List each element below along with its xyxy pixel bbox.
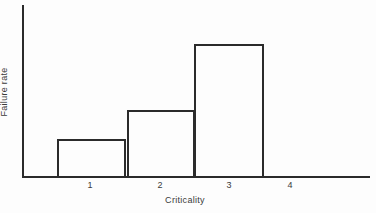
y-axis-title: Failure rate [0,67,9,116]
x-axis-title: Criticality [0,195,376,205]
x-axis-title-text: Criticality [165,195,205,205]
bar-criticality-3 [194,44,264,177]
bar-criticality-2 [127,110,195,177]
failure-rate-criticality-chart: 1 2 3 4 Criticality Failure rate [0,0,376,213]
bar-criticality-1 [57,139,126,177]
x-tick-label-3: 3 [214,180,244,191]
x-tick-label-2: 2 [145,180,175,191]
x-tick-label-1: 1 [75,180,105,191]
y-axis-line [22,5,24,177]
x-tick-label-4: 4 [275,180,305,191]
